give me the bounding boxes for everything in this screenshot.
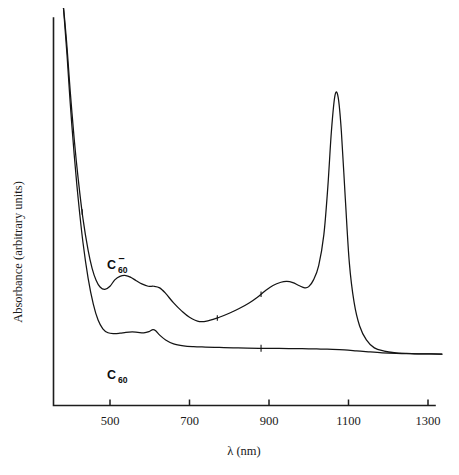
x-axis-title: λ (nm) [227,444,260,458]
curve-group [63,8,441,354]
x-axis-ticks [110,400,428,406]
spectrum-plot: 50070090011001300 λ (nm) Absorbance (arb… [0,0,459,475]
x-axis-tick-labels: 50070090011001300 [101,414,441,428]
axis-lines [54,18,436,406]
series-label-c60-anion-subscript: 60 [118,265,128,275]
x-tick-label-500: 500 [101,414,120,428]
x-tick-label-1100: 1100 [336,414,361,428]
series-label-c60-neutral: C 60 [107,368,128,385]
x-tick-label-1300: 1300 [416,414,441,428]
series-label-c60-anion-base: C [107,258,116,272]
x-tick-label-900: 900 [260,414,279,428]
curve-c60-anion [63,8,441,354]
y-axis-title: Absorbance (arbitrary units) [11,181,25,323]
absorbance-spectrum-figure: 50070090011001300 λ (nm) Absorbance (arb… [0,0,459,475]
series-label-c60-neutral-base: C [107,368,116,382]
series-label-c60-anion: C 60 – [107,252,128,275]
detector-artifacts [82,209,261,351]
curve-c60-neutral [63,8,441,354]
x-tick-label-700: 700 [180,414,199,428]
series-label-c60-neutral-subscript: 60 [118,375,128,385]
series-label-c60-anion-superscript: – [119,252,125,264]
